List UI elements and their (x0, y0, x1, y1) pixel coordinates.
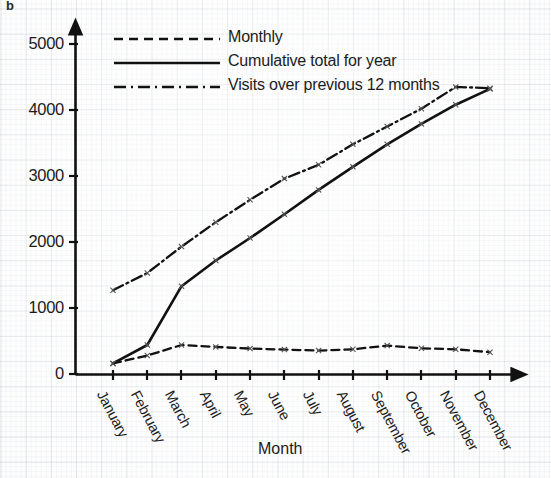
x-axis (76, 370, 514, 380)
series-line-cumulative-total-for-year (113, 89, 490, 364)
y-tick-label: 1000 (8, 298, 64, 317)
x-axis-title: Month (258, 440, 302, 458)
legend-label-monthly: Monthly (228, 28, 283, 46)
chart-figure: b (0, 0, 551, 478)
y-tick-label: 3000 (8, 166, 64, 185)
y-axis (69, 33, 78, 374)
series-line-monthly (113, 345, 490, 363)
y-tick-label: 2000 (8, 232, 64, 251)
legend-label-visits: Visits over previous 12 months (228, 76, 440, 94)
legend-swatches (112, 28, 232, 104)
legend-label-cumulative: Cumulative total for year (228, 52, 396, 70)
y-tick-label: 5000 (8, 34, 64, 53)
y-tick-label: 4000 (8, 100, 64, 119)
y-tick-label: 0 (8, 364, 64, 383)
data-series-layer (110, 84, 492, 366)
